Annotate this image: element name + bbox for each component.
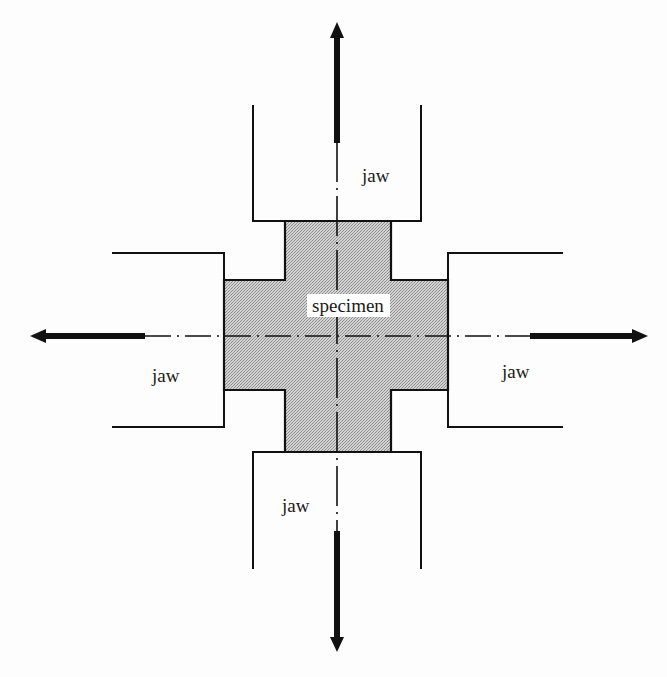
specimen-label: specimen: [312, 295, 384, 316]
arrow-right-icon: [530, 329, 648, 343]
centerlines: [145, 142, 530, 531]
jaw-left-label: jaw: [151, 365, 180, 386]
biaxial-test-diagram: specimen jaw jaw jaw jaw: [0, 0, 667, 677]
jaw-bottom-label: jaw: [281, 495, 310, 516]
arrow-down-icon: [330, 531, 344, 652]
jaw-left: [112, 253, 224, 427]
jaw-right: [448, 253, 563, 427]
jaw-right-label: jaw: [501, 361, 530, 382]
jaw-top-label: jaw: [361, 165, 390, 186]
diagram-canvas: specimen jaw jaw jaw jaw: [0, 0, 667, 677]
arrow-left-icon: [30, 329, 145, 343]
arrow-up-icon: [330, 22, 344, 143]
